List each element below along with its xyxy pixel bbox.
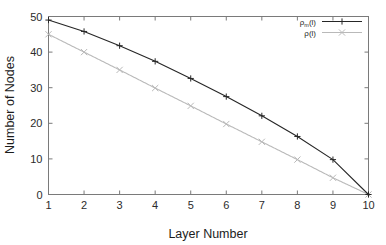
line-chart: 01020304050 12345678910 Layer Number Num…	[0, 0, 386, 245]
series-path	[49, 34, 369, 194]
y-tick-label: 0	[36, 189, 42, 201]
chart-legend: ρm(l)ρ(l)	[300, 18, 362, 38]
x-tick-label: 8	[294, 199, 300, 211]
y-tick-label: 40	[30, 46, 42, 58]
x-tick-label: 3	[117, 199, 123, 211]
y-tick-label: 20	[30, 117, 42, 129]
x-tick-label: 1	[45, 199, 51, 211]
x-tick-label: 7	[259, 199, 265, 211]
x-tick-label: 4	[152, 199, 158, 211]
x-tick-label: 2	[81, 199, 87, 211]
plot-frame	[49, 17, 369, 195]
y-tick-label: 30	[30, 82, 42, 94]
y-axis-title: Number of Nodes	[3, 56, 17, 154]
x-tick-label: 10	[362, 199, 374, 211]
x-tick-label: 9	[330, 199, 336, 211]
x-tick-label: 5	[188, 199, 194, 211]
y-axis-tick-labels: 01020304050	[30, 11, 42, 201]
chart-figure: 01020304050 12345678910 Layer Number Num…	[0, 0, 386, 245]
x-axis-tick-labels: 12345678910	[45, 199, 374, 211]
series-rho-m	[45, 17, 371, 198]
x-axis-title: Layer Number	[168, 227, 247, 241]
y-tick-label: 10	[30, 153, 42, 165]
legend-label: ρm(l)	[300, 18, 317, 28]
y-tick-label: 50	[30, 11, 42, 23]
x-axis-ticks	[49, 17, 369, 195]
series-path	[49, 20, 369, 194]
y-axis-ticks	[49, 17, 369, 195]
series-rho	[45, 31, 371, 197]
legend-label: ρ(l)	[304, 29, 316, 38]
x-tick-label: 6	[223, 199, 229, 211]
